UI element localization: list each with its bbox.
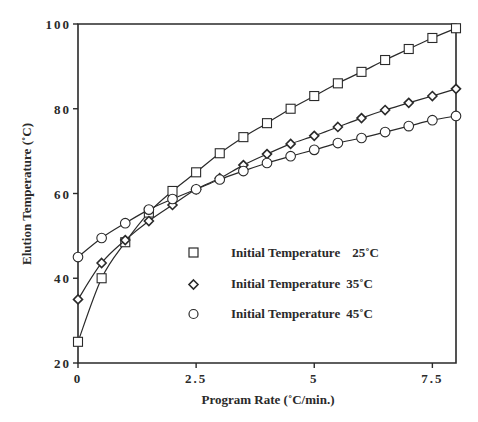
- square-marker-icon: [310, 92, 319, 101]
- legend-label-35c: Initial Temperature35˚C: [231, 276, 373, 291]
- diamond-marker-icon: [428, 92, 437, 101]
- diamond-marker-icon: [189, 280, 198, 289]
- y-tick-label: 60: [54, 187, 71, 202]
- circle-marker-icon: [333, 138, 343, 148]
- circle-marker-icon: [144, 205, 154, 215]
- circle-marker-icon: [239, 166, 249, 176]
- circle-marker-icon: [357, 133, 367, 143]
- square-marker-icon: [381, 56, 390, 65]
- diamond-marker-icon: [452, 84, 461, 93]
- diamond-marker-icon: [263, 150, 272, 159]
- legend-label-25c: Initial Temperature25˚C: [231, 245, 379, 260]
- legend-item-35c: Initial Temperature35˚C: [189, 276, 373, 291]
- circle-marker-icon: [428, 115, 438, 125]
- series-layer: [73, 24, 461, 347]
- legend-label-45c: Initial Temperature45˚C: [231, 306, 373, 321]
- circle-marker-icon: [97, 233, 107, 243]
- square-marker-icon: [239, 133, 248, 142]
- y-axis-title: Elution Temperature (˚C): [19, 123, 34, 265]
- circle-marker-icon: [191, 184, 201, 194]
- diamond-marker-icon: [286, 139, 295, 148]
- x-tick-label: 2.5: [185, 371, 207, 386]
- y-tick-label: 100: [46, 17, 72, 32]
- circle-marker-icon: [404, 121, 414, 131]
- circle-marker-icon: [262, 158, 272, 168]
- circle-marker-icon: [215, 175, 225, 185]
- circle-marker-icon: [168, 194, 178, 204]
- circle-marker-icon: [380, 127, 390, 137]
- x-axis-title: Program Rate (˚C/min.): [202, 392, 335, 407]
- square-marker-icon: [333, 79, 342, 88]
- square-marker-icon: [215, 149, 224, 158]
- elution-temperature-chart: 02.557.520406080100 Initial Temperature2…: [0, 0, 478, 422]
- square-marker-icon: [192, 168, 201, 177]
- circle-marker-icon: [451, 111, 461, 121]
- legend-item-25c: Initial Temperature25˚C: [189, 245, 379, 260]
- circle-marker-icon: [120, 218, 130, 228]
- circle-marker-icon: [286, 151, 296, 161]
- diamond-marker-icon: [381, 106, 390, 115]
- legend-item-45c: Initial Temperature45˚C: [189, 306, 373, 321]
- series-square: [74, 24, 461, 347]
- diamond-marker-icon: [333, 122, 342, 131]
- square-marker-icon: [189, 248, 198, 257]
- square-marker-icon: [263, 119, 272, 128]
- series-diamond: [74, 84, 461, 304]
- diamond-marker-icon: [310, 131, 319, 140]
- square-marker-icon: [74, 337, 83, 346]
- series-line: [78, 116, 456, 257]
- diamond-marker-icon: [404, 98, 413, 107]
- x-tick-label: 0: [74, 371, 83, 386]
- circle-marker-icon: [309, 145, 319, 155]
- plot-axes: 02.557.520406080100: [46, 17, 457, 386]
- legend: Initial Temperature25˚C Initial Temperat…: [189, 245, 379, 321]
- square-marker-icon: [357, 67, 366, 76]
- square-marker-icon: [286, 104, 295, 113]
- y-tick-label: 40: [54, 271, 71, 286]
- series-circle: [73, 111, 461, 262]
- diamond-marker-icon: [357, 114, 366, 123]
- square-marker-icon: [428, 33, 437, 42]
- series-line: [78, 28, 456, 342]
- x-tick-label: 7.5: [421, 371, 443, 386]
- diamond-marker-icon: [74, 295, 83, 304]
- square-marker-icon: [97, 274, 106, 283]
- y-tick-label: 80: [54, 102, 71, 117]
- circle-marker-icon: [189, 310, 198, 319]
- square-marker-icon: [452, 24, 461, 33]
- square-marker-icon: [404, 45, 413, 54]
- circle-marker-icon: [73, 252, 83, 262]
- y-tick-label: 20: [54, 356, 71, 371]
- diamond-marker-icon: [144, 217, 153, 226]
- x-tick-label: 5: [310, 371, 319, 386]
